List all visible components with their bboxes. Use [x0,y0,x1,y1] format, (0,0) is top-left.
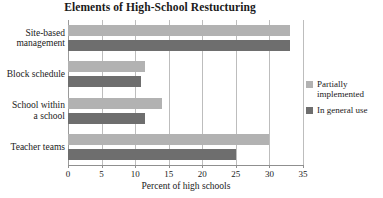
bar-0-series-0 [68,25,290,36]
legend-item-0[interactable]: Partiallyimplemented [306,79,383,99]
legend-swatch-icon-1 [306,107,313,114]
x-tick-mark-20 [202,165,203,168]
legend-label-line: Partially [317,79,364,89]
category-label-1: Block schedule [0,69,65,80]
x-tick-label-0: 0 [56,169,80,179]
x-tick-label-25: 25 [224,169,248,179]
category-label-2: School withina school [0,100,65,121]
category-label-line: School within [0,100,65,111]
legend-label-0: Partiallyimplemented [317,79,364,99]
bar-chart-figure: Elements of High-School Restucturing 051… [0,0,383,198]
x-tick-mark-0 [68,165,69,168]
legend-label-1: In general use [317,105,367,115]
bar-3-series-1 [68,149,236,160]
plot-area [68,20,303,165]
x-tick-label-30: 30 [257,169,281,179]
bar-1-series-1 [68,76,141,87]
legend-item-1[interactable]: In general use [306,105,383,115]
legend-label-line: In general use [317,105,367,115]
bar-2-series-0 [68,98,162,109]
category-label-line: a school [0,111,65,122]
category-label-line: Teacher teams [0,142,65,153]
x-tick-mark-5 [102,165,103,168]
bar-1-series-0 [68,61,145,72]
category-label-3: Teacher teams [0,142,65,153]
x-tick-label-20: 20 [190,169,214,179]
x-tick-mark-35 [303,165,304,168]
bar-2-series-1 [68,113,145,124]
legend-label-line: implemented [317,89,364,99]
chart-title: Elements of High-School Restucturing [0,1,320,13]
x-tick-label-10: 10 [123,169,147,179]
category-label-line: management [0,38,65,49]
x-tick-mark-10 [135,165,136,168]
bar-3-series-0 [68,134,269,145]
bar-0-series-1 [68,40,290,51]
category-label-line: Site-based [0,28,65,39]
x-tick-mark-30 [269,165,270,168]
x-tick-mark-25 [236,165,237,168]
x-tick-label-15: 15 [157,169,181,179]
x-axis-title: Percent of high schools [68,181,304,191]
gridline-35 [303,20,304,165]
legend-swatch-icon-0 [306,81,313,88]
x-tick-label-35: 35 [291,169,315,179]
x-tick-mark-15 [169,165,170,168]
category-label-line: Block schedule [0,69,65,80]
chart-legend: PartiallyimplementedIn general use [306,79,383,121]
x-tick-label-5: 5 [90,169,114,179]
category-label-0: Site-basedmanagement [0,28,65,49]
